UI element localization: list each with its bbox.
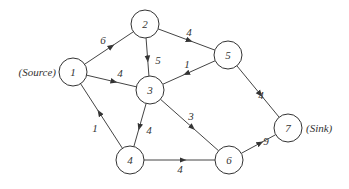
edge-2-to-3 (146, 38, 149, 76)
edge-arrow-segment (87, 75, 114, 81)
edge-weight-label: 4 (186, 26, 192, 38)
edge-1-to-3 (87, 75, 137, 87)
edge-weight-label: 5 (155, 54, 161, 66)
edge-1-to-2 (85, 32, 134, 64)
nodes-layer: 1234567 (59, 10, 302, 174)
edge-3-to-4 (134, 103, 146, 146)
edge-arrow-segment (158, 29, 189, 41)
edge-3-to-6 (160, 99, 218, 150)
edge-weight-label: 1 (184, 58, 190, 70)
sink-label: (Sink) (306, 122, 333, 135)
node-label: 7 (285, 122, 291, 134)
edge-weight-label: 4 (258, 89, 264, 101)
edge-line-segment (114, 82, 136, 87)
source-label: (Source) (19, 66, 57, 79)
edge-line-segment (192, 128, 218, 151)
edge-arrow-segment (139, 103, 146, 127)
node-4: 4 (116, 146, 144, 174)
node-label: 1 (70, 66, 76, 78)
node-label: 2 (142, 18, 148, 30)
edge-arrow-segment (186, 61, 215, 74)
node-6: 6 (215, 146, 243, 174)
node-2: 2 (131, 10, 159, 38)
edge-weight-label: 4 (146, 124, 152, 136)
edge-line-segment (111, 32, 133, 47)
edge-weight-label: 3 (187, 110, 194, 122)
edge-weight-label: 4 (117, 67, 123, 79)
network-diagram: 1234567 64154144349(Source)(Sink) (0, 0, 349, 189)
edges-layer (81, 29, 279, 160)
edge-arrow-segment (237, 66, 260, 94)
edge-weight-label: 9 (263, 135, 269, 147)
node-3: 3 (136, 76, 164, 104)
edge-weight-label: 1 (92, 122, 98, 134)
edge-arrow-segment (85, 46, 112, 64)
edge-4-to-1 (81, 84, 123, 148)
edge-weight-label: 6 (100, 34, 106, 46)
edge-line-segment (134, 127, 140, 146)
node-1: 1 (59, 58, 87, 86)
edge-line-segment (189, 41, 215, 51)
node-label: 5 (225, 49, 231, 61)
node-label: 6 (226, 154, 232, 166)
edge-line-segment (148, 59, 149, 76)
edge-arrow-segment (146, 38, 148, 59)
node-label: 4 (127, 154, 133, 166)
edge-weight-label: 4 (177, 163, 183, 175)
node-label: 3 (146, 84, 153, 96)
labels-layer: 64154144349(Source)(Sink) (19, 26, 333, 175)
edge-arrow-segment (241, 143, 260, 153)
edge-line-segment (163, 74, 187, 85)
edge-arrow-segment (99, 113, 122, 148)
node-5: 5 (214, 41, 242, 69)
node-7: 7 (274, 114, 302, 142)
edge-line-segment (81, 84, 100, 113)
edge-6-to-7 (241, 135, 275, 154)
